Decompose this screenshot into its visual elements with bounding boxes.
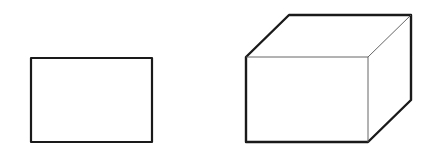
rectangle-shape bbox=[31, 58, 152, 142]
shapes-illustration bbox=[0, 0, 427, 163]
rectangle-outline bbox=[31, 58, 152, 142]
drawing-canvas bbox=[0, 0, 427, 163]
cube-shape bbox=[246, 15, 411, 142]
cube-outline bbox=[246, 15, 411, 142]
